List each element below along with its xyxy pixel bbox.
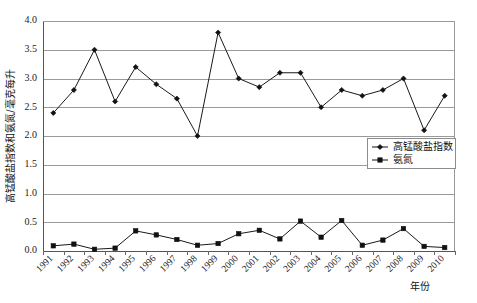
- y-axis-title: 高锰酸盐指数和氨氮/毫克每升: [4, 69, 16, 202]
- x-tick-label: 1992: [55, 253, 76, 274]
- line-chart: 0.00.51.01.52.02.53.03.54.0 199119921993…: [0, 0, 477, 303]
- legend-label: 氨氮: [393, 153, 413, 165]
- y-tick-label: 2.0: [25, 129, 38, 140]
- data-point-marker: [154, 233, 158, 237]
- x-tick-label: 1998: [178, 253, 199, 274]
- x-tick-label: 2004: [302, 253, 323, 274]
- data-point-marker: [319, 235, 323, 239]
- x-tick-label: 2003: [281, 253, 302, 274]
- data-point-marker: [360, 243, 364, 247]
- x-tick-label: 1993: [75, 253, 96, 274]
- data-point-marker: [422, 244, 426, 248]
- data-point-marker: [278, 237, 282, 241]
- x-tick-label: 2005: [323, 253, 344, 274]
- data-point-marker: [92, 247, 96, 251]
- data-point-marker: [298, 70, 303, 75]
- x-tickmarks-group: [44, 251, 456, 255]
- data-point-marker: [422, 128, 427, 133]
- series-line-2: [53, 221, 444, 250]
- x-tick-label: 2008: [384, 253, 405, 274]
- x-tick-label: 2007: [364, 253, 385, 274]
- data-point-marker: [72, 242, 76, 246]
- chart-canvas: 0.00.51.01.52.02.53.03.54.0 199119921993…: [0, 0, 477, 303]
- data-point-marker: [92, 47, 97, 52]
- y-tick-label: 1.0: [25, 187, 38, 198]
- data-point-marker: [442, 93, 447, 98]
- y-tick-label: 1.5: [25, 158, 38, 169]
- x-tick-label: 2002: [261, 253, 282, 274]
- y-tick-label: 4.0: [25, 14, 38, 25]
- y-tick-label: 3.5: [25, 43, 38, 54]
- data-point-marker: [340, 218, 344, 222]
- x-tick-label: 2006: [343, 253, 364, 274]
- data-point-marker: [134, 229, 138, 233]
- data-point-marker: [216, 30, 221, 35]
- data-point-marker: [216, 241, 220, 245]
- data-point-marker: [401, 226, 405, 230]
- x-tick-label: 1991: [34, 253, 55, 274]
- x-tick-label: 2000: [220, 253, 241, 274]
- data-point-marker: [443, 245, 447, 249]
- data-point-marker: [236, 76, 241, 81]
- legend-label: 高锰酸盐指数: [393, 140, 453, 152]
- data-point-marker: [175, 237, 179, 241]
- data-point-marker: [401, 76, 406, 81]
- data-point-marker: [380, 87, 385, 92]
- y-tick-label: 2.5: [25, 101, 38, 112]
- x-tick-label: 2009: [405, 253, 426, 274]
- gridlines-group: [43, 22, 455, 223]
- y-tick-label: 0.0: [25, 244, 38, 255]
- x-tick-label: 2010: [426, 253, 447, 274]
- x-tick-label: 1995: [117, 253, 138, 274]
- y-tick-label: 0.5: [25, 216, 38, 227]
- data-point-marker: [113, 246, 117, 250]
- data-point-marker: [51, 244, 55, 248]
- x-axis-title: 年份: [410, 280, 430, 292]
- y-tick-label: 3.0: [25, 72, 38, 83]
- series-line-1: [53, 33, 444, 137]
- x-tick-label: 1996: [137, 253, 158, 274]
- x-tick-label: 1994: [96, 253, 117, 274]
- y-tick-labels-group: 0.00.51.01.52.02.53.03.54.0: [25, 14, 38, 255]
- data-point-marker: [257, 228, 261, 232]
- data-point-marker: [381, 238, 385, 242]
- data-point-marker: [360, 93, 365, 98]
- chart-legend: 高锰酸盐指数氨氮: [368, 139, 456, 169]
- x-tick-label: 1997: [158, 253, 179, 274]
- data-point-marker: [195, 243, 199, 247]
- x-tick-label: 2001: [240, 253, 261, 274]
- data-point-marker: [298, 219, 302, 223]
- x-tick-label: 1999: [199, 253, 220, 274]
- data-point-marker: [195, 133, 200, 138]
- x-tick-labels-group: 1991199219931994199519961997199819992000…: [34, 253, 446, 274]
- data-point-marker: [237, 232, 241, 236]
- data-point-marker: [113, 99, 118, 104]
- legend-marker-square: [378, 158, 382, 162]
